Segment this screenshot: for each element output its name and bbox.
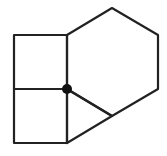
triangle-shape (67, 89, 112, 143)
lower-square-shape (14, 89, 67, 143)
marked-vertex-dot (62, 84, 72, 94)
upper-square-shape (14, 35, 67, 89)
geometry-diagram (0, 0, 167, 156)
hexagon-shape (67, 8, 158, 116)
vertex-marks (62, 84, 72, 94)
shapes-group (14, 8, 158, 143)
